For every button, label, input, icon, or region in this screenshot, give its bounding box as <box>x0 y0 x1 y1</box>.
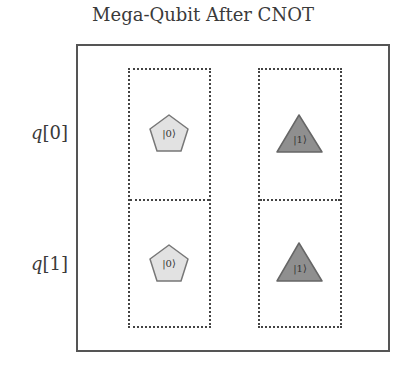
state-shapes: |0⟩ |1⟩ |0⟩ |1⟩ <box>0 0 406 374</box>
pentagon-icon: |0⟩ <box>150 115 188 151</box>
svg-text:|0⟩: |0⟩ <box>162 128 176 140</box>
svg-text:|1⟩: |1⟩ <box>293 263 307 275</box>
svg-text:|1⟩: |1⟩ <box>293 134 307 146</box>
triangle-icon: |1⟩ <box>277 115 322 152</box>
svg-text:|0⟩: |0⟩ <box>162 258 176 270</box>
pentagon-icon: |0⟩ <box>150 245 188 281</box>
triangle-icon: |1⟩ <box>277 243 322 281</box>
